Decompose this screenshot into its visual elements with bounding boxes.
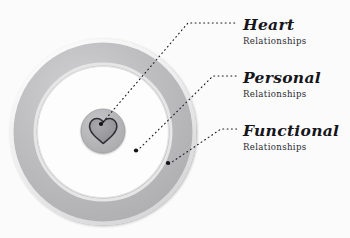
label-functional-subtitle: Relationships	[243, 143, 339, 152]
anchor-dot-heart	[99, 122, 103, 126]
label-heart-subtitle: Relationships	[243, 37, 307, 46]
label-functional: Functional Relationships	[243, 123, 339, 151]
diagram-canvas: Heart Relationships Personal Relationshi…	[0, 0, 350, 238]
anchor-dot-personal	[134, 148, 138, 152]
label-functional-title: Functional	[243, 123, 339, 139]
anchor-dot-functional	[166, 161, 170, 165]
label-personal: Personal Relationships	[243, 70, 321, 98]
label-heart: Heart Relationships	[243, 17, 307, 45]
label-personal-subtitle: Relationships	[243, 90, 321, 99]
label-personal-title: Personal	[243, 70, 321, 86]
label-heart-title: Heart	[243, 17, 307, 33]
